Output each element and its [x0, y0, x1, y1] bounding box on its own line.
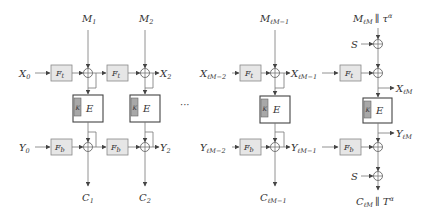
- f-t-label: Ft: [111, 69, 121, 80]
- diagram-canvas: M1 X0 Ft K E Y0 Fb C1: [0, 0, 434, 218]
- column-final: MℓM∥ τα S Ft XℓM K E YℓM Fb: [340, 12, 413, 209]
- xor-icon: [374, 143, 383, 152]
- y-input-label-lm2: YℓM−2: [200, 142, 226, 155]
- f-t-label: Ft: [244, 69, 254, 80]
- cipher-label-1: C1: [82, 192, 94, 205]
- message-label-lm1: MℓM−1: [259, 13, 289, 26]
- xor-icon: [141, 69, 150, 78]
- column-2: M2 Ft X2 K E Fb Y2 C2: [107, 13, 171, 205]
- y-output-label-final: YℓM: [396, 128, 412, 141]
- message-label-final: MℓM∥ τα: [352, 12, 393, 26]
- cipher-label-final: CℓM∥ Tα: [356, 195, 395, 209]
- k-label: K: [132, 104, 138, 111]
- cipher-label-2: C2: [139, 192, 151, 205]
- y-output-label-lm1: YℓM−1: [291, 142, 317, 155]
- xor-icon: [141, 143, 150, 152]
- cipher-label-lm1: CℓM−1: [260, 192, 287, 205]
- ellipsis: ···: [180, 99, 190, 110]
- y-output-label-2: Y2: [160, 142, 171, 155]
- x-input-label: X0: [18, 68, 30, 81]
- e-label: E: [85, 103, 94, 114]
- message-label-1: M1: [81, 13, 96, 26]
- x-output-label-final: XℓM: [395, 83, 413, 96]
- k-label: K: [262, 105, 268, 112]
- xor-icon: [374, 172, 383, 181]
- x-output-label-lm1: XℓM−1: [290, 68, 317, 81]
- xor-icon: [374, 69, 383, 78]
- e-label: E: [142, 103, 151, 114]
- x-output-label-2: X2: [159, 68, 171, 81]
- f-b-label: Fb: [54, 143, 65, 154]
- x-input-label-lm2: XℓM−2: [199, 68, 226, 81]
- xor-icon: [84, 143, 93, 152]
- e-label: E: [272, 104, 281, 115]
- f-b-label: Fb: [343, 143, 354, 154]
- s-label-bottom: S: [351, 171, 358, 182]
- f-b-label: Fb: [243, 143, 254, 154]
- f-t-label: Ft: [55, 69, 65, 80]
- f-b-label: Fb: [110, 143, 121, 154]
- xor-icon: [374, 40, 383, 49]
- y-input-label: Y0: [19, 142, 30, 155]
- k-label: K: [75, 104, 81, 111]
- s-label-top: S: [351, 39, 358, 50]
- k-label: K: [365, 106, 371, 113]
- xor-icon: [271, 143, 280, 152]
- column-1: M1 X0 Ft K E Y0 Fb C1: [18, 13, 106, 205]
- message-label-2: M2: [138, 13, 153, 26]
- column-lm-minus-1: MℓM−1 XℓM−2 Ft XℓM−1 K E YℓM−2 Fb YℓM−1: [199, 13, 338, 205]
- xor-icon: [271, 69, 280, 78]
- e-label: E: [375, 105, 384, 116]
- xor-icon: [84, 69, 93, 78]
- f-t-label: Ft: [344, 69, 354, 80]
